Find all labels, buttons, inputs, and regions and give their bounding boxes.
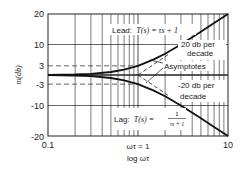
y-axis-title: m(db): [14, 65, 23, 84]
slope-neg-label-1: -20 db per: [178, 81, 215, 90]
slope-pos-label-1: 20 db per: [181, 40, 215, 49]
lag-denominator: τs + 1: [170, 121, 185, 127]
y-tick-minus-3: -3: [36, 80, 44, 90]
bode-plot: 20 10 3 -3 -10 -20 m(db) 0.1 ωτ = 1 10 l…: [0, 0, 243, 174]
slope-pos-label-2: decade: [187, 49, 214, 58]
y-tick-minus-10: -10: [31, 101, 44, 111]
y-tick-20: 20: [34, 9, 44, 19]
y-tick-3: 3: [39, 61, 44, 71]
y-axis-ticks: 20 10 3 -3 -10 -20: [31, 9, 44, 142]
x-tick-0-1: 0.1: [42, 140, 55, 150]
x-axis-title: log ωτ: [127, 154, 150, 163]
y-tick-10: 10: [34, 40, 44, 50]
x-tick-10: 10: [223, 140, 233, 150]
lag-label: Lag: T(s) =: [114, 115, 154, 124]
asymptotes-label: Asymptotes: [164, 62, 206, 71]
lead-label: Lead: T(s) = τs + 1: [112, 26, 178, 35]
slope-neg-label-2: decade: [180, 92, 207, 101]
x-tick-1: ωτ = 1: [127, 142, 150, 151]
